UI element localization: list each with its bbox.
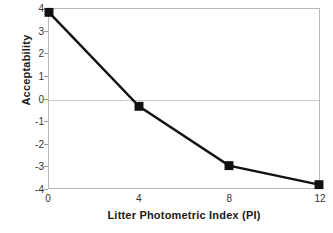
series-marker [135,102,144,111]
x-axis-title: Litter Photometric Index (PI) [48,209,320,221]
y-tick-label: 2 [18,48,44,59]
chart-figure: Acceptability 43210-1-2-3-4 04812 Litter… [0,0,333,233]
x-tick-label: 4 [124,193,154,204]
y-tick-label: -2 [18,138,44,149]
series-marker [225,161,234,170]
y-tick-label: 1 [18,70,44,81]
x-axis-tick-labels: 04812 [48,193,320,207]
series-acceptability [49,9,319,188]
x-tick-label: 0 [33,193,63,204]
y-axis-tick-labels: 43210-1-2-3-4 [0,8,44,189]
y-tick-label: 0 [18,93,44,104]
series-line [49,12,319,184]
x-tick-label: 12 [305,193,333,204]
series-marker [315,180,324,189]
y-tick-label: 3 [18,25,44,36]
y-tick-mark [44,189,48,190]
y-tick-label: 4 [18,3,44,14]
x-tick-label: 8 [214,193,244,204]
series-markers [45,8,324,189]
series-marker [45,8,54,17]
y-tick-label: -3 [18,161,44,172]
y-tick-label: -1 [18,116,44,127]
plot-area [48,8,320,189]
